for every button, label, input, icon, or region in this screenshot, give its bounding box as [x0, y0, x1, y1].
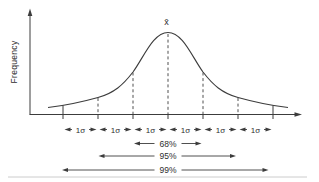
sigma-interval-arrowheads: [65, 128, 272, 132]
arrow-left-icon: [240, 128, 246, 132]
sigma-label: 1σ: [76, 126, 85, 135]
arrow-right-icon: [231, 128, 237, 132]
arrow-left-icon: [135, 128, 141, 132]
coverage-68-label: 68%: [159, 139, 176, 149]
arrow-left-icon: [99, 154, 105, 158]
arrow-right-icon: [230, 154, 236, 158]
sigma-label: 1σ: [251, 126, 260, 135]
arrow-right-icon: [126, 128, 132, 132]
axes: [30, 15, 297, 115]
arrow-left-icon: [170, 128, 176, 132]
arrow-left-icon: [205, 128, 211, 132]
sigma-label: 1σ: [181, 126, 190, 135]
arrow-right-icon: [266, 128, 272, 132]
sigma-label: 1σ: [111, 126, 120, 135]
mean-label: x̄: [164, 17, 169, 27]
sigma-label: 1σ: [216, 126, 225, 135]
arrow-right-icon: [196, 142, 202, 146]
y-axis-label: Frequency: [9, 40, 19, 83]
arrow-right-icon: [91, 128, 97, 132]
y-axis-arrowhead-icon: [28, 9, 33, 17]
arrow-left-icon: [62, 168, 68, 172]
sigma-dashed-guides: [98, 34, 238, 115]
arrow-left-icon: [134, 142, 140, 146]
arrow-left-icon: [100, 128, 106, 132]
sigma-label: 1σ: [146, 126, 155, 135]
coverage-99-label: 99%: [159, 165, 176, 175]
bell-curve-chart: Frequency x̄: [0, 0, 319, 182]
normal-distribution-figure: Frequency x̄: [0, 0, 319, 182]
arrow-right-icon: [161, 128, 167, 132]
arrow-right-icon: [263, 168, 269, 172]
arrow-left-icon: [65, 128, 71, 132]
arrow-right-icon: [196, 128, 202, 132]
coverage-95-label: 95%: [159, 151, 176, 161]
x-axis-arrowhead-icon: [295, 112, 303, 117]
